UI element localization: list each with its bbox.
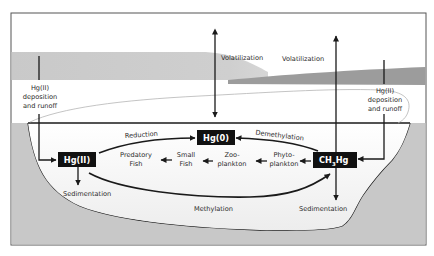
deposition-label-left-1: Hg(II) bbox=[31, 84, 49, 92]
deposition-label-right-1: Hg(II) bbox=[376, 87, 394, 95]
phytoplankton-label-1: Phyto- bbox=[273, 151, 295, 159]
phytoplankton-label-2: plankton bbox=[270, 160, 299, 168]
predatory-fish-label-2: Fish bbox=[130, 160, 143, 168]
small-fish-label-1: Small bbox=[177, 151, 195, 159]
food-chain-phytoplankton: Phyto- plankton bbox=[270, 151, 299, 168]
sedimentation-label-right: Sedimentation bbox=[299, 205, 347, 213]
hg0-box: Hg(0) bbox=[197, 130, 235, 145]
deposition-label-left-2: deposition bbox=[23, 93, 57, 101]
deposition-label-left-3: and runoff bbox=[23, 102, 58, 110]
deposition-label-right-3: and runoff bbox=[368, 105, 403, 113]
methylation-label: Methylation bbox=[194, 205, 233, 213]
mercury-cycle-diagram: Volatilization Volatilization Hg(II) dep… bbox=[0, 0, 434, 256]
ch3hg-label-hg: Hg bbox=[336, 155, 349, 165]
ch3hg-label-ch: CH bbox=[319, 155, 332, 165]
hg2-label: Hg(II) bbox=[64, 155, 91, 165]
hg0-label: Hg(0) bbox=[203, 133, 229, 143]
deposition-label-right-2: deposition bbox=[368, 96, 402, 104]
volatilization-label-right: Volatilization bbox=[282, 55, 324, 63]
zooplankton-label-2: plankton bbox=[218, 160, 247, 168]
volatilization-label-left: Volatilization bbox=[221, 54, 263, 62]
predatory-fish-label-1: Predatory bbox=[120, 151, 152, 159]
ch3hg-box: CH3Hg bbox=[313, 152, 357, 168]
sedimentation-label-left: Sedimentation bbox=[63, 190, 111, 198]
hg2-box: Hg(II) bbox=[58, 152, 96, 167]
small-fish-label-2: Fish bbox=[180, 160, 193, 168]
zooplankton-label-1: Zoo- bbox=[224, 151, 240, 159]
